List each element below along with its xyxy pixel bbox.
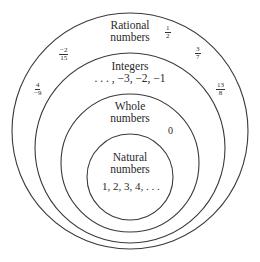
integers-label: Integers . . . , −3, −2, −1 <box>85 60 175 84</box>
fraction-13-8: 13 8 <box>216 82 225 97</box>
rational-label: Rational numbers <box>100 19 160 43</box>
fraction-3-7: 3 7 <box>195 46 201 61</box>
whole-label: Whole numbers <box>100 100 160 124</box>
natural-label-line2: numbers <box>100 163 160 175</box>
fraction-neg2-15: −2 15 <box>59 47 68 62</box>
fraction-denominator: −9 <box>34 90 41 97</box>
fraction-denominator: 8 <box>219 90 223 97</box>
natural-values: 1, 2, 3, 4, . . . <box>102 180 160 192</box>
fraction-denominator: 2 <box>166 33 170 40</box>
rational-circle <box>12 13 248 249</box>
natural-circle <box>87 134 173 220</box>
integers-values: . . . , −3, −2, −1 <box>85 72 175 84</box>
fraction-denominator: 7 <box>196 54 200 61</box>
fraction-4-neg9: 4 −9 <box>34 82 41 97</box>
rational-label-line1: Rational <box>100 19 160 31</box>
integers-label-line1: Integers <box>85 60 175 72</box>
fraction-1-2: 1 2 <box>165 25 171 40</box>
whole-label-line1: Whole <box>100 100 160 112</box>
whole-label-line2: numbers <box>100 112 160 124</box>
rational-label-line2: numbers <box>100 31 160 43</box>
natural-label: Natural numbers <box>100 151 160 175</box>
fraction-denominator: 15 <box>60 55 67 62</box>
natural-label-line1: Natural <box>100 151 160 163</box>
whole-zero: 0 <box>168 125 173 136</box>
